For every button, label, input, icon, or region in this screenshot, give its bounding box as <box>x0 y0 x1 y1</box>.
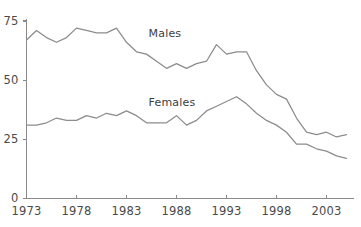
x-tick-label: 2003 <box>297 204 357 218</box>
y-tick-label: 25 <box>0 132 19 146</box>
x-axis <box>27 195 355 199</box>
series-label-males: Males <box>149 27 182 40</box>
y-axis-ticks <box>23 21 27 199</box>
y-tick-label: 50 <box>0 73 19 87</box>
y-axis <box>23 19 27 199</box>
series-label-females: Females <box>149 96 196 109</box>
data-series-group <box>27 28 347 158</box>
x-axis-ticks <box>77 195 327 199</box>
y-tick-label: 75 <box>0 14 19 28</box>
line-chart: 0255075 1973197819831988199319982003 Mal… <box>0 0 361 227</box>
